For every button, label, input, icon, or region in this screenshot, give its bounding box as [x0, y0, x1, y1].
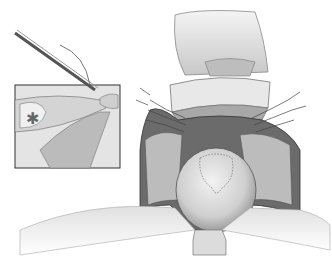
- retracted-flap: [170, 78, 270, 122]
- retractor-blade: [193, 230, 226, 255]
- star-marker-icon: ✱: [26, 109, 39, 128]
- surgical-illustration: ✱: [0, 0, 332, 271]
- lower-skin-left: [20, 206, 195, 255]
- upper-tissue: [174, 11, 268, 76]
- inset-magnified-view: ✱: [15, 85, 120, 168]
- forceps-instrument: [15, 30, 98, 90]
